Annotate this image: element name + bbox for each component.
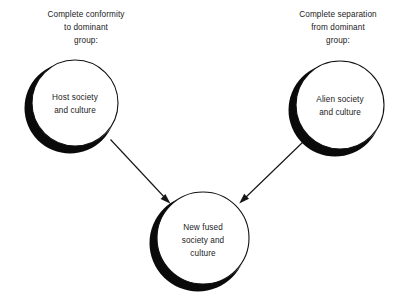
diagram-canvas: Complete conformity to dominant group: C…: [0, 0, 397, 302]
node-fused-society[interactable]: New fused society and culture: [0, 0, 397, 302]
fused-society-label-line1: New fused: [183, 223, 223, 232]
fused-society-label-line2: society and: [182, 236, 225, 245]
fused-society-label-line3: culture: [190, 249, 216, 258]
